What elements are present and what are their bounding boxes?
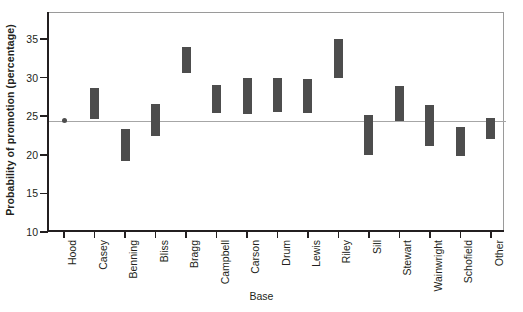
- x-axis-tick: [490, 232, 492, 238]
- range-bar: [212, 85, 221, 114]
- x-axis-tick-label: Bragg: [188, 240, 200, 268]
- x-axis-title: Base: [0, 290, 523, 302]
- range-bar: [425, 105, 434, 145]
- x-axis-tick-label: Carson: [249, 240, 261, 274]
- range-bar: [486, 118, 495, 140]
- x-axis-tick: [94, 232, 96, 238]
- x-axis-tick: [124, 232, 126, 238]
- x-axis-tick: [307, 232, 309, 238]
- y-axis-tick-label: 25: [4, 110, 38, 122]
- y-axis-tick-label: 20: [4, 149, 38, 161]
- range-bar: [334, 39, 343, 78]
- y-axis-tick-labels: 101520253035: [0, 0, 38, 312]
- y-axis-tick: [40, 193, 48, 195]
- y-axis-tick: [40, 154, 48, 156]
- x-axis-tick: [63, 232, 65, 238]
- y-axis-tick-label: 10: [4, 226, 38, 238]
- x-axis-tick-label: Drum: [280, 240, 292, 266]
- y-axis-tick: [40, 115, 48, 117]
- y-axis-tick: [40, 231, 48, 233]
- x-axis-tick: [216, 232, 218, 238]
- x-axis-tick: [399, 232, 401, 238]
- x-axis-tick: [338, 232, 340, 238]
- x-axis-tick-label: Other: [493, 240, 505, 266]
- x-axis-tick-label: Riley: [340, 240, 352, 263]
- range-bar: [121, 129, 130, 161]
- range-bar: [151, 104, 160, 136]
- range-bar: [395, 86, 404, 121]
- plot-area: [47, 12, 504, 232]
- range-bar: [456, 127, 465, 156]
- x-axis-tick: [277, 232, 279, 238]
- x-axis-tick: [246, 232, 248, 238]
- x-axis-tick-label: Campbell: [219, 240, 231, 284]
- range-bar: [303, 79, 312, 113]
- x-axis-tick-label: Sill: [371, 240, 383, 254]
- y-axis-tick-label: 35: [4, 33, 38, 45]
- y-axis-tick-label: 15: [4, 187, 38, 199]
- x-axis-tick-label: Casey: [97, 240, 109, 270]
- reference-line: [49, 121, 506, 122]
- x-axis-tick: [185, 232, 187, 238]
- y-axis-tick-label: 30: [4, 72, 38, 84]
- x-axis-tick-label: Hood: [66, 240, 78, 265]
- range-bar: [364, 115, 373, 155]
- y-axis-tick: [40, 77, 48, 79]
- x-axis-tick: [429, 232, 431, 238]
- range-bar: [182, 47, 191, 73]
- x-axis-tick-label: Schofield: [462, 240, 474, 283]
- data-point-marker: [62, 118, 67, 123]
- x-axis-tick: [368, 232, 370, 238]
- range-bar: [243, 78, 252, 114]
- x-axis-tick-label: Benning: [127, 240, 139, 279]
- x-axis-tick-label: Bliss: [158, 240, 170, 262]
- x-axis-tick-label: Lewis: [310, 240, 322, 267]
- range-bar: [273, 78, 282, 111]
- x-axis-tick: [155, 232, 157, 238]
- range-bar: [90, 88, 99, 120]
- x-axis-tick-label: Wainwright: [432, 240, 444, 292]
- y-axis-tick: [40, 38, 48, 40]
- chart-figure: Probability of promotion (percentage) 10…: [0, 0, 523, 312]
- x-axis-tick-label: Stewart: [401, 240, 413, 276]
- x-axis-tick: [460, 232, 462, 238]
